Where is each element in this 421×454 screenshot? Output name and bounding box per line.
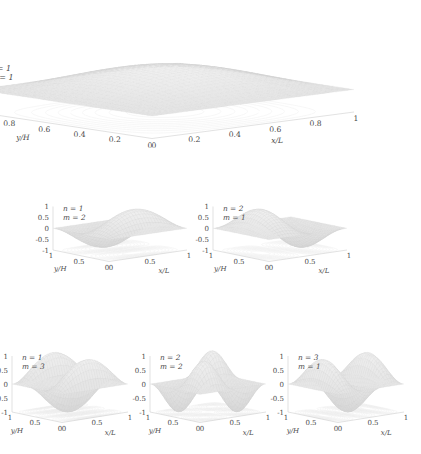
mode-shape-figure: 21.510.5000.20.40.60.8110.80.60.40.20x/L… [0,0,421,454]
panel-n1-m1-tick: 0 [148,141,153,150]
panel-n1-m3-ylabel: y/H [10,427,24,435]
panel-n2-m2-tick: 0 [200,425,204,433]
surface-panel-n1-m2: 10.50-0.5-100.5110.50x/Ly/Hn = 1m = 2 [52,155,217,285]
panel-n1-m3-mode-n: n = 1 [22,353,42,362]
panel-n1-m3-tick: 0.5 [0,367,8,375]
panel-n1-m3-tick: 0.5 [29,419,40,427]
panel-n2-m2-tick: 1 [142,353,146,361]
panel-n3-m1-tick: 0.5 [273,367,284,375]
panel-n2-m1-tick: 1 [347,252,351,260]
panel-n1-m3-tick: -0.5 [0,395,8,403]
panel-n2-m2-xlabel: x/L [243,429,254,437]
panel-n2-m1-tick: 0 [269,264,273,272]
panel-n1-m2-tick: -0.5 [36,236,50,244]
panel-n1-m3-tick: 0 [4,381,8,389]
panel-n3-m1-mode-n: n = 3 [298,353,319,362]
panel-n2-m2-tick: 1 [146,414,150,422]
panel-n2-m2-tick: 0.5 [167,419,178,427]
panel-n3-m1-tick: 0 [334,425,338,433]
panel-n2-m2-tick: -0.5 [133,395,147,403]
panel-n3-m1-xlabel: x/L [381,429,392,437]
panel-n2-m2-canvas: 10.50-0.5-100.5110.50x/Ly/Hn = 2m = 2 [142,300,282,454]
panel-n2-m1-ylabel: y/H [213,265,227,273]
panel-n3-m1-tick: 0.5 [367,419,378,427]
panel-n1-m1-tick: 0.8 [310,119,322,128]
panel-n1-m3-tick: 1 [8,414,12,422]
panel-n2-m1-tick: 0.5 [304,258,315,266]
panel-n2-m1-canvas: 10.50-0.5-100.5110.50x/Ly/Hn = 2m = 1 [212,155,377,285]
panel-n3-m1-ylabel: y/H [286,427,300,435]
panel-n2-m2-tick: 0 [196,425,200,433]
panel-n1-m2-mode-n: n = 1 [63,204,83,213]
panel-n1-m1-canvas: 21.510.5000.20.40.60.8110.80.60.40.20x/L… [0,0,421,150]
panel-n1-m2-tick: 1 [49,252,53,260]
panel-n1-m3-tick: 0.5 [91,419,102,427]
panel-n2-m1-tick: 1 [205,203,209,211]
panel-n1-m2-xlabel: x/L [158,267,169,275]
panel-n2-m1-tick: -0.5 [196,236,210,244]
panel-n3-m1-mode-m: m = 1 [298,362,321,371]
panel-n1-m3-mode-m: m = 3 [22,362,45,371]
panel-n2-m1-tick: 0 [265,264,269,272]
panel-n1-m3-tick: 1 [4,353,8,361]
panel-n2-m2-ylabel: y/H [148,427,162,435]
panel-n2-m1-tick: 1 [209,252,213,260]
panel-n1-m1-mode-m: m = 1 [0,73,13,82]
surface-panel-n1-m1: 21.510.5000.20.40.60.8110.80.60.40.20x/L… [0,0,421,150]
panel-n1-m2-tick: 0.5 [38,214,49,222]
panel-n2-m1-tick: 0 [205,225,209,233]
panel-n1-m2-tick: 1 [187,252,191,260]
surface-panel-n2-m1: 10.50-0.5-100.5110.50x/Ly/Hn = 2m = 1 [212,155,377,285]
panel-n1-m1-mode-n: n = 1 [0,64,11,73]
panel-n2-m2-mode-m: m = 2 [160,362,183,371]
panel-n1-m1-tick: 0.8 [3,119,15,128]
panel-n1-m1-xlabel: x/L [271,136,283,145]
panel-n3-m1-tick: 0 [338,425,342,433]
panel-n2-m1-tick: 0.5 [233,258,244,266]
panel-n1-m1-tick: 0.6 [38,125,50,134]
panel-n1-m2-tick: 0.5 [144,258,155,266]
panel-n1-m3-tick: 0 [58,425,62,433]
surface-panel-n1-m3: 10.50-0.5-100.5110.50x/Ly/Hn = 1m = 3 [4,300,144,454]
panel-n1-m2-tick: 0 [109,264,113,272]
panel-n1-m3-xlabel: x/L [105,429,116,437]
panel-n1-m2-tick: 0 [105,264,109,272]
panel-n1-m1-tick: 0.4 [74,130,86,139]
panel-n1-m1-surface [0,63,354,116]
panel-n1-m1-tick: 0.2 [109,135,121,144]
panel-n1-m2-canvas: 10.50-0.5-100.5110.50x/Ly/Hn = 1m = 2 [52,155,217,285]
panel-n1-m3-canvas: 10.50-0.5-100.5110.50x/Ly/Hn = 1m = 3 [4,300,144,454]
panel-n3-m1-tick: 1 [404,414,408,422]
panel-n3-m1-tick: 0 [280,381,284,389]
panel-n2-m2-tick: 1 [266,414,270,422]
panel-n2-m1-mode-n: n = 2 [223,204,244,213]
panel-n3-m1-tick: 0.5 [305,419,316,427]
panel-n1-m1-ylabel: y/H [15,133,30,142]
panel-n2-m1-mode-m: m = 1 [223,213,246,222]
panel-n3-m1-tick: 1 [284,414,288,422]
surface-panel-n2-m2: 10.50-0.5-100.5110.50x/Ly/Hn = 2m = 2 [142,300,282,454]
panel-n1-m1-tick: 0.4 [229,130,241,139]
panel-n2-m1-xlabel: x/L [318,267,329,275]
panel-n1-m2-tick: 0.5 [73,258,84,266]
panel-n1-m3-tick: 0 [62,425,66,433]
panel-n1-m1-tick: 1 [354,114,359,123]
panel-n1-m2-tick: 0 [45,225,49,233]
panel-n2-m2-tick: 0.5 [135,367,146,375]
panel-n1-m3-tick: 1 [128,414,132,422]
panel-n1-m1-tick: 0.2 [188,135,200,144]
panel-n1-m2-ylabel: y/H [53,265,67,273]
panel-n3-m1-canvas: 10.50-0.5-100.5110.50x/Ly/Hn = 3m = 1 [280,300,420,454]
panel-n1-m2-mode-m: m = 2 [63,213,86,222]
panel-n1-m1-tick: 0.6 [269,125,281,134]
panel-n1-m2-tick: 1 [45,203,49,211]
panel-n2-m2-tick: 0 [142,381,146,389]
panel-n2-m2-mode-n: n = 2 [160,353,181,362]
panel-n2-m1-tick: 0.5 [198,214,209,222]
panel-n2-m2-tick: 0.5 [229,419,240,427]
panel-n3-m1-tick: 1 [280,353,284,361]
panel-n3-m1-tick: -0.5 [271,395,285,403]
surface-panel-n3-m1: 10.50-0.5-100.5110.50x/Ly/Hn = 3m = 1 [280,300,420,454]
